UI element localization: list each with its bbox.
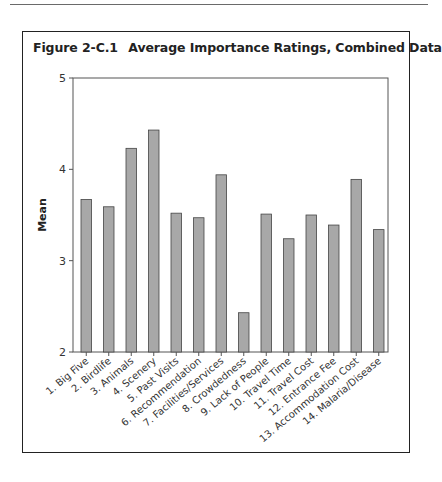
bar (239, 313, 250, 352)
y-tick-label: 4 (59, 163, 66, 176)
bar (194, 218, 205, 352)
bar (126, 148, 137, 352)
bar (374, 230, 385, 352)
bar (329, 225, 340, 352)
y-tick-label: 5 (59, 72, 66, 85)
x-axis: 1. Big Five2. Birdlife3. Animals4. Scene… (44, 352, 383, 444)
y-tick-label: 2 (59, 346, 66, 359)
bar (351, 179, 362, 352)
bar (261, 214, 272, 352)
bar (306, 215, 317, 352)
bar (284, 239, 295, 352)
bar (216, 175, 227, 352)
bar (104, 207, 115, 352)
bar (149, 130, 160, 352)
bars (81, 130, 384, 352)
y-tick-label: 3 (59, 255, 66, 268)
bar (171, 213, 182, 352)
y-axis-label: Mean (36, 198, 49, 232)
bar (81, 199, 92, 352)
plot-frame (73, 78, 388, 352)
